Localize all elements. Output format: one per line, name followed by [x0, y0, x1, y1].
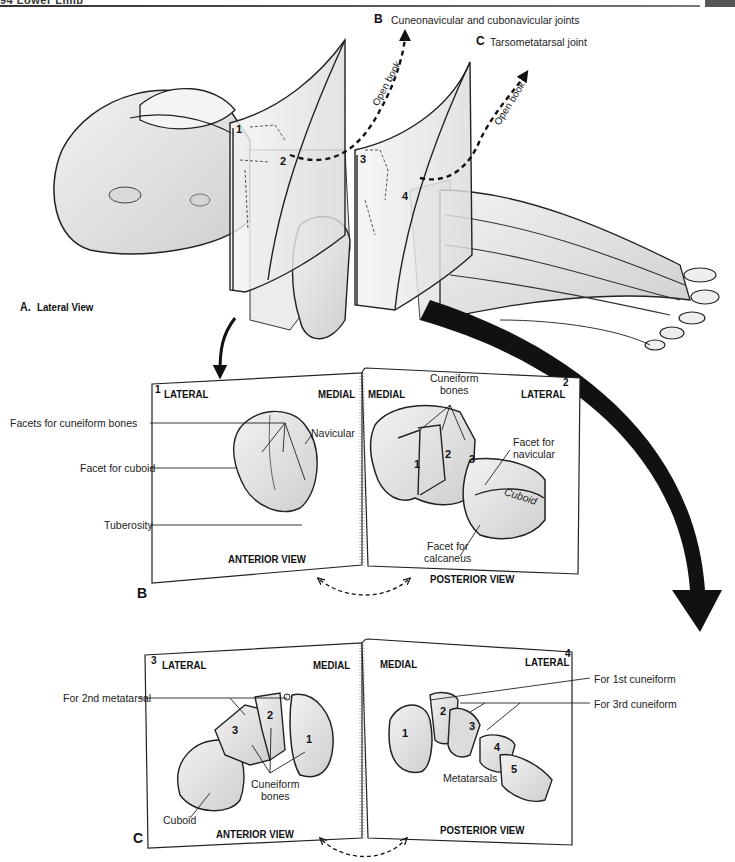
label-facets-cuneiform: Facets for cuneiform bones [10, 417, 137, 429]
cuneiform-1: 1 [414, 458, 420, 470]
plane-number-3: 3 [360, 153, 366, 165]
page-4-lateral: LATERAL [525, 656, 569, 668]
page-4-number: 4 [565, 648, 571, 659]
page-3-medial: MEDIAL [313, 659, 350, 671]
page-1-lateral: LATERAL [164, 388, 208, 400]
metatarsal-2: 2 [440, 705, 446, 717]
cuneiform-1-anterior: 1 [306, 733, 312, 745]
page-3-lateral: LATERAL [162, 659, 206, 671]
callout-b-letter: B [374, 12, 383, 26]
label-facet-navicular-line2: navicular [513, 448, 555, 460]
callout-c-text: Tarsometatarsal joint [490, 36, 587, 48]
callout-c-letter: C [476, 34, 485, 48]
label-metatarsals: Metatarsals [443, 772, 497, 784]
label-for-3rd-cuneiform: For 3rd cuneiform [594, 698, 677, 710]
label-facet-calcaneus-line2: calcaneus [424, 552, 471, 564]
label-cuneiform-line1: Cuneiform [430, 372, 478, 384]
label-navicular: Navicular [311, 427, 355, 439]
label-facet-navicular-line1: Facet for [513, 436, 554, 448]
plane-number-2: 2 [280, 155, 286, 167]
figure-artwork [0, 0, 735, 862]
cuneiform-2-anterior: 2 [267, 709, 273, 721]
metatarsal-1: 1 [402, 727, 408, 739]
page-2-view: POSTERIOR VIEW [430, 573, 514, 585]
metatarsal-3: 3 [469, 720, 475, 732]
page-1-medial: MEDIAL [318, 388, 355, 400]
metatarsal-4: 4 [494, 741, 500, 753]
metatarsal-5: 5 [511, 763, 517, 775]
label-cuneiform-line2: bones [440, 384, 469, 396]
arrow-to-panel-b [220, 318, 235, 372]
label-facet-cuboid: Facet for cuboid [80, 462, 155, 474]
page-2-lateral: LATERAL [521, 388, 565, 400]
page-3-view: ANTERIOR VIEW [216, 828, 294, 840]
panel-c-letter: C [133, 830, 143, 846]
page-3-number: 3 [151, 655, 157, 666]
callout-b-text: Cuneonavicular and cubonavicular joints [391, 14, 580, 26]
page-4-medial: MEDIAL [380, 658, 417, 670]
panel-b-letter: B [137, 585, 147, 601]
label-for-1st-cuneiform: For 1st cuneiform [594, 673, 676, 685]
panel-a-caption: Lateral View [37, 301, 93, 313]
page-2-medial: MEDIAL [368, 388, 405, 400]
cuneiform-2: 2 [445, 448, 451, 460]
label-for-2nd-metatarsal: For 2nd metatarsal [63, 692, 151, 704]
cuneiform-3-anterior: 3 [232, 724, 238, 736]
plane-number-4: 4 [402, 190, 408, 202]
plane-number-1: 1 [236, 123, 242, 135]
cuneiform-3: 3 [469, 453, 475, 465]
label-cuneiform-c-line2: bones [261, 790, 290, 802]
label-facet-calcaneus-line1: Facet for [427, 540, 468, 552]
page-1-view: ANTERIOR VIEW [228, 553, 306, 565]
label-cuneiform-c-line1: Cuneiform [251, 778, 299, 790]
page-2-number: 2 [563, 377, 569, 388]
label-tuberosity: Tuberosity [104, 519, 153, 531]
panel-a-letter: A. [20, 300, 31, 314]
book-panel-b [150, 368, 580, 595]
label-cuboid-c: Cuboid [163, 814, 196, 826]
page-1-number: 1 [155, 384, 161, 395]
page-4-view: POSTERIOR VIEW [440, 824, 524, 836]
